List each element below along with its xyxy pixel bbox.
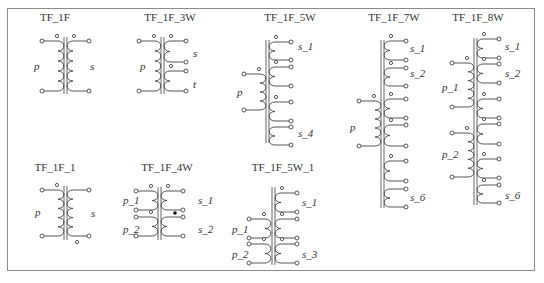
terminal-pin[interactable] — [247, 261, 251, 265]
terminal-pin[interactable] — [497, 56, 501, 60]
terminal-pin[interactable] — [87, 89, 91, 93]
transformer-symbol-tf-1f[interactable]: TF_1Fps — [33, 11, 94, 94]
primary-winding: p_2 — [231, 237, 271, 265]
terminal-pin[interactable] — [404, 66, 408, 70]
terminal-pin[interactable] — [497, 176, 501, 180]
terminal-pin[interactable] — [87, 234, 91, 238]
terminal-pin[interactable] — [497, 37, 501, 41]
terminal-pin[interactable] — [242, 72, 246, 76]
coil-wire — [67, 190, 87, 236]
winding-label: s_1 — [410, 42, 425, 54]
primary-winding: p_1 — [122, 184, 158, 212]
terminal-pin[interactable] — [450, 105, 454, 109]
transformer-symbol-tf-1f-7w[interactable]: TF_1F_7Wps_1s_2s_6 — [349, 11, 426, 209]
terminal-pin[interactable] — [404, 205, 408, 209]
terminal-pin[interactable] — [404, 58, 408, 62]
terminal-pin[interactable] — [40, 234, 44, 238]
terminal-pin[interactable] — [181, 189, 185, 193]
terminal-pin[interactable] — [497, 62, 501, 66]
terminal-pin[interactable] — [295, 261, 299, 265]
terminal-pin[interactable] — [184, 69, 188, 73]
terminal-pin[interactable] — [404, 97, 408, 101]
coil-wire — [361, 101, 381, 146]
terminal-pin[interactable] — [450, 131, 454, 135]
terminal-pin[interactable] — [289, 40, 293, 44]
terminal-pin[interactable] — [295, 242, 299, 246]
terminal-pin[interactable] — [404, 179, 408, 183]
terminal-pin[interactable] — [497, 201, 501, 205]
polarity-dot-icon — [173, 211, 177, 215]
terminal-pin[interactable] — [247, 236, 251, 240]
winding-label: s_4 — [298, 127, 314, 139]
terminal-pin[interactable] — [181, 208, 185, 212]
terminal-pin[interactable] — [497, 122, 501, 126]
terminal-pin[interactable] — [404, 159, 408, 163]
terminal-pin[interactable] — [497, 157, 501, 161]
terminal-pin[interactable] — [184, 39, 188, 43]
terminal-pin[interactable] — [247, 242, 251, 246]
terminal-pin[interactable] — [40, 39, 44, 43]
primary-winding: p — [137, 34, 161, 93]
terminal-pin[interactable] — [450, 61, 454, 65]
terminal-pin[interactable] — [134, 189, 138, 193]
terminal-pin[interactable] — [497, 81, 501, 85]
terminal-pin[interactable] — [404, 123, 408, 127]
secondary-winding: s_1 — [275, 186, 317, 214]
terminal-pin[interactable] — [40, 188, 44, 192]
terminal-pin[interactable] — [184, 89, 188, 93]
terminal-pin[interactable] — [181, 234, 185, 238]
secondary-winding: s_1 — [384, 34, 425, 62]
terminal-pin[interactable] — [295, 217, 299, 221]
terminal-pin[interactable] — [404, 84, 408, 88]
transformer-symbol-tf-1f-1[interactable]: TF_1F_1ps — [34, 161, 95, 244]
terminal-pin[interactable] — [184, 60, 188, 64]
terminal-pin[interactable] — [404, 39, 408, 43]
terminal-pin[interactable] — [289, 58, 293, 62]
terminal-pin[interactable] — [295, 191, 299, 195]
winding-label: s_1 — [302, 196, 317, 208]
terminal-pin[interactable] — [137, 89, 141, 93]
polarity-marker-icon — [482, 92, 485, 95]
winding-label: s_2 — [198, 223, 214, 235]
terminal-pin[interactable] — [497, 142, 501, 146]
terminal-pin[interactable] — [289, 119, 293, 123]
secondary-winding: s_1 — [269, 35, 313, 62]
terminal-pin[interactable] — [497, 183, 501, 187]
terminal-pin[interactable] — [137, 39, 141, 43]
terminal-pin[interactable] — [357, 144, 361, 148]
terminal-pin[interactable] — [497, 116, 501, 120]
terminal-pin[interactable] — [295, 236, 299, 240]
terminal-pin[interactable] — [247, 217, 251, 221]
terminal-pin[interactable] — [404, 187, 408, 191]
terminal-pin[interactable] — [357, 99, 361, 103]
terminal-pin[interactable] — [289, 143, 293, 147]
terminal-pin[interactable] — [87, 39, 91, 43]
terminal-pin[interactable] — [497, 97, 501, 101]
transformer-symbol-tf-1f-5w[interactable]: TF_1F_5Wps_1s_4 — [236, 11, 316, 147]
transformer-symbol-tf-1f-5w-1[interactable]: TF_1F_5W_1p_1p_2s_1s_3 — [231, 161, 318, 265]
transformer-symbol-tf-1f-4w[interactable]: TF_1F_4Wp_1p_2s_1s_2 — [122, 161, 214, 240]
terminal-pin[interactable] — [134, 208, 138, 212]
coil-wire — [164, 41, 184, 62]
primary-winding: p — [236, 67, 266, 112]
polarity-marker-icon — [257, 67, 260, 70]
terminal-pin[interactable] — [289, 84, 293, 88]
terminal-pin[interactable] — [295, 210, 299, 214]
polarity-marker-icon — [72, 34, 75, 37]
transformer-symbol-tf-1f-8w[interactable]: TF_1F_8Wp_1p_2s_1s_2s_6 — [441, 11, 521, 205]
terminal-pin[interactable] — [450, 175, 454, 179]
polarity-marker-icon — [55, 34, 58, 37]
terminal-pin[interactable] — [87, 188, 91, 192]
symbol-title: TF_1F_5W_1 — [252, 161, 314, 173]
terminal-pin[interactable] — [289, 100, 293, 104]
transformer-symbol-tf-1f-3w[interactable]: TF_1F_3Wpst — [137, 11, 197, 94]
polarity-marker-icon — [372, 94, 375, 97]
terminal-pin[interactable] — [242, 108, 246, 112]
terminal-pin[interactable] — [289, 65, 293, 69]
terminal-pin[interactable] — [404, 144, 408, 148]
terminal-pin[interactable] — [134, 215, 138, 219]
terminal-pin[interactable] — [404, 116, 408, 120]
terminal-pin[interactable] — [181, 215, 185, 219]
terminal-pin[interactable] — [289, 125, 293, 129]
terminal-pin[interactable] — [40, 89, 44, 93]
